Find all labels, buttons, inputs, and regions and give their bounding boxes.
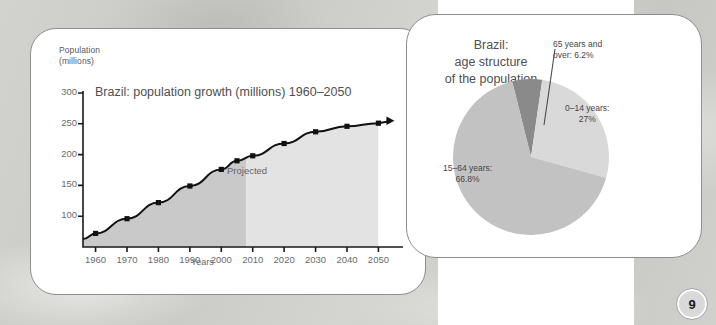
x-axis-title: Years	[191, 257, 214, 267]
projected-annotation: Projected	[227, 165, 267, 176]
pie-label-65-plus-line1: 65 years and	[553, 39, 602, 50]
pie-label-65-plus: 65 years and over: 6.2%	[553, 39, 602, 60]
pie-label-15-64-line2: 66.8%	[443, 174, 492, 185]
population-growth-card: Population (millions) Brazil: population…	[30, 28, 426, 295]
page-number-badge: 9	[676, 288, 708, 320]
pie-label-15-64: 15–64 years: 66.8%	[443, 163, 492, 184]
plot-area	[31, 29, 425, 294]
line-chart: Population (millions) Brazil: population…	[31, 29, 425, 294]
pie-label-65-plus-line2: over: 6.2%	[553, 50, 602, 61]
pie-label-0-14-line2: 27%	[565, 114, 609, 125]
trend-arrow-icon	[386, 116, 394, 124]
pie-label-15-64-line1: 15–64 years:	[443, 163, 492, 174]
pie-chart: Brazil: age structure of the population …	[407, 15, 701, 257]
pie-label-0-14-line1: 0–14 years:	[565, 103, 609, 114]
age-structure-card: Brazil: age structure of the population …	[406, 14, 702, 258]
pie-label-0-14: 0–14 years: 27%	[565, 103, 609, 124]
